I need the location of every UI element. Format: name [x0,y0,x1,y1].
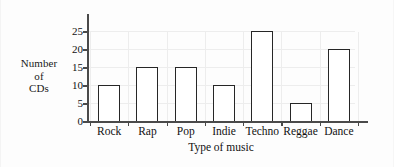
y-axis-tick-label: 0 [61,116,83,127]
bar-dance [328,49,350,121]
bar-chart-figure: Number of CDs 0510152025 RockRapPopIndie… [0,0,394,167]
y-axis-tick-label: 25 [61,26,83,37]
gridline-horizontal [87,49,355,50]
y-axis-tick-label: 5 [61,98,83,109]
gridline-horizontal [87,67,355,68]
bar-rap [136,67,158,121]
y-axis-tick [83,67,87,69]
bar-techno [251,31,273,121]
bar-rock [98,85,120,121]
y-axis-tick [83,121,87,123]
y-axis-title-line-3: CDs [11,82,67,95]
y-axis-tick [83,31,87,33]
y-axis-tick [83,103,87,105]
x-axis-label-techno: Techno [243,124,281,138]
x-axis-tick-labels: RockRapPopIndieTechnoReggaeDance [87,124,369,139]
gridline-vertical [281,32,282,122]
gridline-vertical [128,32,129,122]
x-axis-label-pop: Pop [167,124,205,138]
x-axis-label-rap: Rap [128,124,166,138]
bar-indie [213,85,235,121]
y-axis-tick [83,49,87,51]
y-axis-line [87,14,89,122]
y-axis-tick-label: 20 [61,44,83,55]
y-axis-title-line-1: Number [11,57,67,70]
x-axis-title: Type of music [87,140,355,154]
y-axis-tick-label: 10 [61,80,83,91]
plot-area [87,14,361,122]
y-axis-tick [83,85,87,87]
bar-reggae [290,103,312,121]
y-axis-tick-label: 15 [61,62,83,73]
gridline-vertical [243,32,244,122]
bar-pop [175,67,197,121]
gridline-vertical [90,32,91,122]
y-axis-title: Number of CDs [11,57,67,95]
gridline-vertical [358,32,359,122]
gridline-vertical [320,32,321,122]
x-axis-label-indie: Indie [205,124,243,138]
gridline-vertical [167,32,168,122]
y-axis-title-line-2: of [11,70,67,83]
y-axis-tick-labels: 0510152025 [61,14,83,122]
x-axis-label-dance: Dance [320,124,358,138]
x-axis-label-reggae: Reggae [281,124,319,138]
gridline-horizontal [87,31,355,32]
gridline-vertical [205,32,206,122]
x-axis-label-rock: Rock [90,124,128,138]
